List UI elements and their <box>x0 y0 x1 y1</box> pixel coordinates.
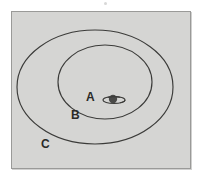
ringed-planet-icon <box>102 92 126 108</box>
region-label-c: C <box>41 138 50 150</box>
outer-ellipse-c <box>17 30 173 144</box>
planet-body <box>109 95 117 103</box>
figure-canvas: A B C <box>12 12 190 168</box>
scan-artifact-speck <box>104 2 107 5</box>
region-label-a: A <box>86 91 95 103</box>
figure-root: A B C <box>0 0 202 181</box>
region-label-b: B <box>71 109 80 121</box>
ringed-planet-svg <box>102 92 126 108</box>
figure-frame: A B C <box>11 11 191 169</box>
ellipse-diagram-svg <box>12 12 190 168</box>
